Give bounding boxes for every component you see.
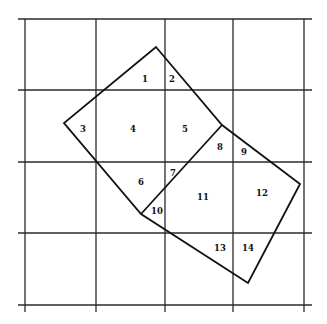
- cell-label: 6: [138, 177, 144, 187]
- cell-label: 1: [142, 74, 148, 84]
- cell-label: 8: [217, 142, 223, 152]
- cell-label: 4: [130, 124, 136, 134]
- grid-diagram: 1234567891011121314: [0, 0, 327, 324]
- cell-label: 10: [151, 206, 163, 216]
- polygon-inner-edge: [141, 125, 222, 214]
- cell-label: 9: [241, 147, 247, 157]
- cell-label: 12: [256, 188, 268, 198]
- cell-label: 2: [169, 74, 175, 84]
- cell-label: 5: [182, 124, 188, 134]
- cell-label: 13: [214, 243, 226, 253]
- cell-label: 7: [170, 168, 176, 178]
- cell-labels: 1234567891011121314: [80, 74, 268, 253]
- cell-label: 3: [80, 124, 86, 134]
- polygon-outline: [64, 47, 300, 283]
- rotated-polygon: [64, 47, 300, 283]
- cell-label: 11: [197, 192, 209, 202]
- grid: [18, 19, 312, 312]
- cell-label: 14: [242, 243, 254, 253]
